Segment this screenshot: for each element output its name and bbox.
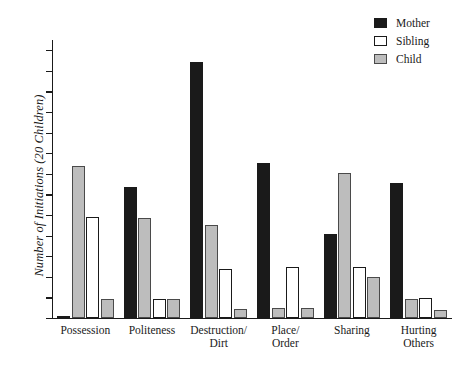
legend-label-mother: Mother: [396, 17, 430, 29]
bar-sibling[interactable]: [353, 267, 366, 318]
plot-area: [52, 40, 452, 318]
child-swatch-icon: [374, 54, 387, 64]
legend-item-sibling[interactable]: Sibling: [374, 33, 430, 49]
bar-mother[interactable]: [124, 187, 137, 318]
bar-group: [185, 40, 252, 318]
bar-child[interactable]: [138, 218, 151, 318]
bar-child[interactable]: [205, 225, 218, 318]
y-tick-mark: [46, 318, 52, 319]
bar-sibling[interactable]: [153, 299, 166, 318]
bar-mother[interactable]: [390, 183, 403, 318]
bar-child[interactable]: [272, 308, 285, 318]
bar-group: [385, 40, 452, 318]
sibling-swatch-icon: [374, 36, 387, 46]
bar-group: [319, 40, 386, 318]
bar-mother[interactable]: [324, 234, 337, 318]
bar-chart: Number of Initiations (20 Children) 0246…: [0, 0, 459, 372]
x-axis-label: Politeness: [119, 324, 186, 337]
bar-group: [119, 40, 186, 318]
bar-group: [52, 40, 119, 318]
legend-item-mother[interactable]: Mother: [374, 15, 430, 31]
bar-group: [252, 40, 319, 318]
x-axis-label: Destruction/ Dirt: [185, 324, 252, 350]
bar-mother[interactable]: [190, 62, 203, 318]
mother-swatch-icon: [374, 18, 387, 28]
bar-mother[interactable]: [57, 316, 70, 318]
bar-child-secondary[interactable]: [234, 309, 247, 318]
bar-sibling[interactable]: [419, 298, 432, 318]
x-axis-label: Place/ Order: [252, 324, 319, 350]
legend-label-sibling: Sibling: [396, 35, 429, 47]
legend: Mother Sibling Child: [374, 15, 430, 69]
bar-mother[interactable]: [257, 163, 270, 318]
bar-child-secondary[interactable]: [167, 299, 180, 318]
bar-sibling[interactable]: [86, 217, 99, 318]
y-axis-title: Number of Initiations (20 Children): [32, 71, 47, 301]
legend-label-child: Child: [396, 53, 422, 65]
bar-sibling[interactable]: [286, 267, 299, 318]
x-axis-label: Hurting Others: [385, 324, 452, 350]
bar-child-secondary[interactable]: [367, 277, 380, 318]
bar-child[interactable]: [405, 299, 418, 318]
bar-child[interactable]: [338, 173, 351, 318]
bar-child-secondary[interactable]: [101, 299, 114, 318]
x-axis-label: Sharing: [319, 324, 386, 337]
bar-child-secondary[interactable]: [434, 310, 447, 318]
bar-child[interactable]: [72, 166, 85, 318]
x-axis-label: Possession: [52, 324, 119, 337]
x-axis-line: [52, 318, 452, 319]
bar-child-secondary[interactable]: [301, 308, 314, 318]
legend-item-child[interactable]: Child: [374, 51, 430, 67]
bar-sibling[interactable]: [219, 269, 232, 318]
